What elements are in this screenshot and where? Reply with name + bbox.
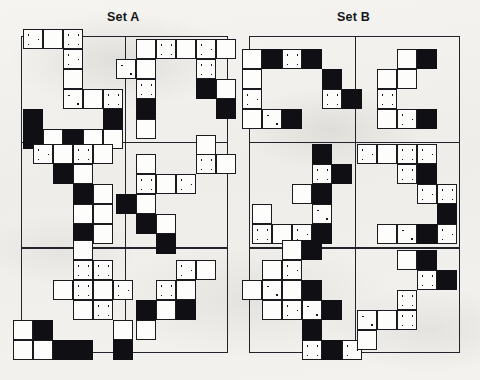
puzzle-tile-dots[interactable] xyxy=(437,184,457,204)
puzzle-tile-black[interactable] xyxy=(417,49,437,69)
puzzle-tile-dots[interactable] xyxy=(262,280,282,300)
puzzle-tile-white[interactable] xyxy=(262,300,282,320)
puzzle-tile-dots[interactable] xyxy=(357,310,377,330)
puzzle-tile-white[interactable] xyxy=(93,184,113,204)
puzzle-tile-white[interactable] xyxy=(93,280,113,300)
puzzle-tile-dots[interactable] xyxy=(116,59,136,79)
puzzle-tile-dots[interactable] xyxy=(33,144,53,164)
puzzle-cell[interactable] xyxy=(21,142,125,248)
puzzle-tile-dots[interactable] xyxy=(312,204,332,224)
puzzle-tile-dots[interactable] xyxy=(196,39,216,59)
puzzle-tile-dots[interactable] xyxy=(242,89,262,109)
puzzle-tile-white[interactable] xyxy=(136,320,156,340)
puzzle-tile-black[interactable] xyxy=(417,109,437,129)
puzzle-tile-dots[interactable] xyxy=(23,29,43,49)
puzzle-tile-black[interactable] xyxy=(216,99,236,119)
puzzle-tile-black[interactable] xyxy=(73,340,93,360)
puzzle-tile-white[interactable] xyxy=(377,69,397,89)
puzzle-tile-white[interactable] xyxy=(377,109,397,129)
puzzle-tile-white[interactable] xyxy=(156,300,176,320)
puzzle-tile-white[interactable] xyxy=(53,144,73,164)
puzzle-tile-black[interactable] xyxy=(322,300,342,320)
puzzle-tile-dots[interactable] xyxy=(156,39,176,59)
puzzle-tile-white[interactable] xyxy=(63,69,83,89)
puzzle-tile-dots[interactable] xyxy=(282,300,302,320)
puzzle-tile-white[interactable] xyxy=(216,39,236,59)
puzzle-cell[interactable] xyxy=(355,247,461,353)
puzzle-tile-white[interactable] xyxy=(216,79,236,99)
puzzle-tile-dots[interactable] xyxy=(156,280,176,300)
puzzle-tile-black[interactable] xyxy=(302,240,322,260)
puzzle-tile-white[interactable] xyxy=(242,49,262,69)
puzzle-tile-white[interactable] xyxy=(357,330,377,350)
puzzle-tile-black[interactable] xyxy=(33,320,53,340)
puzzle-tile-dots[interactable] xyxy=(437,224,457,244)
puzzle-tile-black[interactable] xyxy=(437,204,457,224)
puzzle-tile-white[interactable] xyxy=(93,204,113,224)
puzzle-tile-white[interactable] xyxy=(242,280,262,300)
puzzle-tile-dots[interactable] xyxy=(93,260,113,280)
puzzle-tile-black[interactable] xyxy=(103,109,123,129)
puzzle-tile-dots[interactable] xyxy=(73,260,93,280)
puzzle-tile-white[interactable] xyxy=(43,29,63,49)
puzzle-tile-black[interactable] xyxy=(53,164,73,184)
puzzle-tile-dots[interactable] xyxy=(397,164,417,184)
puzzle-tile-white[interactable] xyxy=(252,204,272,224)
puzzle-tile-white[interactable] xyxy=(136,39,156,59)
puzzle-tile-black[interactable] xyxy=(136,300,156,320)
puzzle-tile-black[interactable] xyxy=(322,69,342,89)
puzzle-tile-black[interactable] xyxy=(302,320,322,340)
puzzle-tile-dots[interactable] xyxy=(397,109,417,129)
puzzle-tile-dots[interactable] xyxy=(63,29,83,49)
puzzle-tile-white[interactable] xyxy=(216,154,236,174)
puzzle-tile-white[interactable] xyxy=(377,224,397,244)
puzzle-tile-dots[interactable] xyxy=(417,270,437,290)
puzzle-tile-dots[interactable] xyxy=(312,164,332,184)
puzzle-tile-black[interactable] xyxy=(312,144,332,164)
puzzle-tile-white[interactable] xyxy=(83,89,103,109)
puzzle-tile-white[interactable] xyxy=(377,310,397,330)
puzzle-tile-dots[interactable] xyxy=(397,144,417,164)
puzzle-tile-white[interactable] xyxy=(73,164,93,184)
puzzle-tile-black[interactable] xyxy=(176,300,196,320)
puzzle-tile-white[interactable] xyxy=(136,154,156,174)
puzzle-tile-black[interactable] xyxy=(136,99,156,119)
puzzle-tile-black[interactable] xyxy=(417,224,437,244)
puzzle-tile-dots[interactable] xyxy=(302,300,322,320)
puzzle-tile-black[interactable] xyxy=(282,109,302,129)
puzzle-tile-dots[interactable] xyxy=(63,49,83,69)
puzzle-tile-black[interactable] xyxy=(312,184,332,204)
puzzle-tile-white[interactable] xyxy=(176,39,196,59)
puzzle-tile-black[interactable] xyxy=(116,194,136,214)
puzzle-tile-black[interactable] xyxy=(136,214,156,234)
puzzle-tile-dots[interactable] xyxy=(136,174,156,194)
puzzle-tile-dots[interactable] xyxy=(357,144,377,164)
puzzle-tile-white[interactable] xyxy=(73,300,93,320)
puzzle-tile-white[interactable] xyxy=(292,184,312,204)
puzzle-tile-white[interactable] xyxy=(93,144,113,164)
puzzle-tile-white[interactable] xyxy=(377,144,397,164)
puzzle-tile-dots[interactable] xyxy=(397,310,417,330)
puzzle-tile-dots[interactable] xyxy=(252,224,272,244)
puzzle-tile-black[interactable] xyxy=(437,270,457,290)
puzzle-tile-dots[interactable] xyxy=(322,89,342,109)
puzzle-tile-white[interactable] xyxy=(73,240,93,260)
puzzle-tile-dots[interactable] xyxy=(302,340,322,360)
puzzle-tile-dots[interactable] xyxy=(176,260,196,280)
puzzle-tile-black[interactable] xyxy=(23,109,43,129)
puzzle-tile-dots[interactable] xyxy=(63,89,83,109)
puzzle-tile-white[interactable] xyxy=(156,214,176,234)
puzzle-tile-dots[interactable] xyxy=(262,109,282,129)
puzzle-tile-dots[interactable] xyxy=(282,49,302,69)
puzzle-cell[interactable] xyxy=(125,36,229,142)
puzzle-cell[interactable] xyxy=(21,247,125,353)
puzzle-tile-white[interactable] xyxy=(13,320,33,340)
puzzle-tile-dots[interactable] xyxy=(73,280,93,300)
puzzle-tile-dots[interactable] xyxy=(103,89,123,109)
puzzle-tile-black[interactable] xyxy=(322,340,342,360)
puzzle-tile-dots[interactable] xyxy=(397,224,417,244)
puzzle-cell[interactable] xyxy=(355,36,461,142)
puzzle-tile-white[interactable] xyxy=(136,59,156,79)
puzzle-tile-black[interactable] xyxy=(332,164,352,184)
puzzle-cell[interactable] xyxy=(125,247,229,353)
